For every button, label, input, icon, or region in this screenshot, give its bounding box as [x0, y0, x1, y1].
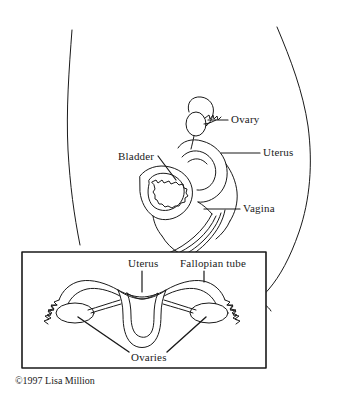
label-uterus: Uterus — [263, 147, 294, 158]
copyright-notice: ©1997 Lisa Million — [15, 375, 95, 386]
anatomy-illustration — [0, 0, 342, 402]
label-ovary: Ovary — [231, 114, 260, 125]
label-inset-ovaries: Ovaries — [131, 352, 167, 363]
label-bladder: Bladder — [118, 151, 154, 162]
label-inset-fallopian-tube: Fallopian tube — [180, 258, 246, 269]
label-inset-uterus: Uterus — [128, 258, 159, 269]
label-vagina: Vagina — [243, 203, 275, 214]
